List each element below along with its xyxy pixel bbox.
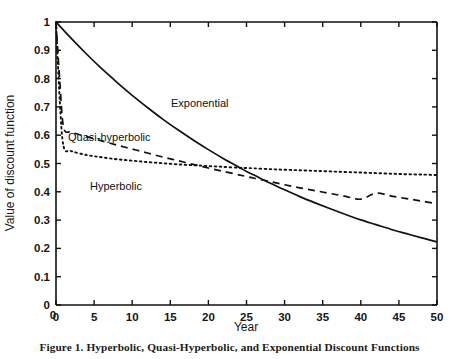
y-tick-label: 0.6 (34, 129, 50, 141)
y-tick-label: 0.5 (34, 158, 51, 170)
curve-hyperbolic (56, 22, 437, 175)
origin-zero-label: 0 (50, 309, 56, 321)
discount-function-chart: 05101520253035404550 00.10.20.30.40.50.6… (0, 0, 459, 359)
figure-container: 05101520253035404550 00.10.20.30.40.50.6… (0, 0, 459, 359)
y-tick-label: 0.9 (34, 44, 50, 56)
x-tick-label: 5 (91, 311, 98, 323)
x-tick-label: 45 (393, 311, 406, 323)
y-tick-label: 0.8 (34, 73, 51, 85)
x-tick-label: 15 (164, 311, 177, 323)
x-tick-label: 20 (202, 311, 215, 323)
label-quasi-hyperbolic: Quasi-hyperbolic (68, 131, 151, 143)
x-tick-label: 10 (126, 311, 139, 323)
x-axis-ticks (56, 22, 437, 305)
y-tick-label: 0.2 (34, 242, 50, 254)
y-tick-label: 0.1 (34, 271, 51, 283)
y-tick-label: 0.7 (34, 101, 50, 113)
curve-quasi-hyperbolic (56, 22, 437, 204)
x-tick-label: 35 (316, 311, 329, 323)
y-tick-label: 0.4 (34, 186, 51, 198)
label-hyperbolic: Hyperbolic (90, 180, 142, 192)
label-exponential: Exponential (171, 97, 229, 109)
figure-caption: Figure 1. Hyperbolic, Quasi-Hyperbolic, … (0, 341, 459, 353)
axis-frame (56, 22, 437, 305)
y-axis-ticks (56, 22, 437, 305)
y-axis-title: Value of discount function (3, 95, 17, 232)
x-tick-label: 50 (431, 311, 444, 323)
y-tick-label: 0.3 (34, 214, 50, 226)
y-tick-label: 1 (44, 16, 51, 28)
x-tick-label: 30 (278, 311, 291, 323)
y-axis-tick-labels: 00.10.20.30.40.50.60.70.80.91 (34, 16, 51, 311)
x-axis-title: Year (234, 320, 258, 334)
x-tick-label: 40 (354, 311, 367, 323)
